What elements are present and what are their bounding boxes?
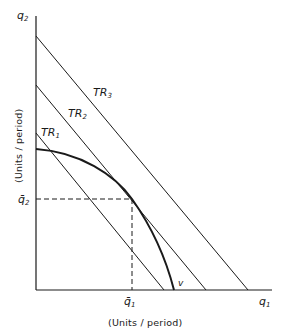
curve-label: v [178,279,183,288]
production-frontier-curve [36,149,174,290]
x-axis-title: (Units / period) [108,317,182,328]
tr3-label: TR3 [93,87,112,100]
y-axis-label: q2 [17,10,28,23]
tr1-label: TR1 [41,127,60,140]
tr2-line [36,85,206,290]
tr2-label: TR2 [68,108,87,121]
tr1-line [36,133,164,290]
x-axis-label: q1 [259,296,270,309]
y-axis-title: (Units / period) [13,109,24,183]
q1-bar-label: q̄1 [124,296,135,309]
q2-bar-label: q̄2 [18,194,29,207]
tr3-line [36,36,248,290]
diagram-canvas [0,0,282,333]
